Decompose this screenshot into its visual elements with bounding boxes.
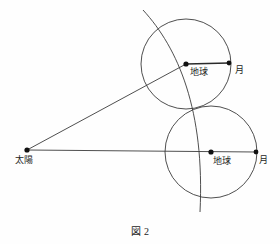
label-sun: 太陽 xyxy=(15,156,33,165)
sun-to-lower-moon-line xyxy=(27,150,256,152)
label-moon-upper: 月 xyxy=(235,66,244,75)
upper-earth-point xyxy=(183,61,188,66)
upper-earth-to-moon-line xyxy=(186,63,229,64)
figure-caption: 図 2 xyxy=(0,223,280,238)
astronomy-diagram xyxy=(0,0,280,244)
label-earth-upper: 地球 xyxy=(190,68,208,77)
label-moon-lower: 月 xyxy=(259,156,268,165)
sun-to-upper-earth-line xyxy=(27,64,186,150)
lower-earth-point xyxy=(208,149,213,154)
label-earth-lower: 地球 xyxy=(213,157,231,166)
lower-moon-point xyxy=(254,150,259,155)
upper-moon-point xyxy=(227,61,232,66)
earth-orbit-arc-path xyxy=(143,10,201,212)
sun-point xyxy=(24,147,29,152)
figure-container: 太陽 地球 月 地球 月 図 2 xyxy=(0,0,280,244)
